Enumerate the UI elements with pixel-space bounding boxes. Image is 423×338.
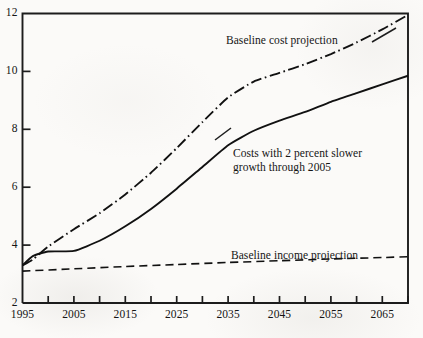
y-tick-label: 8	[12, 122, 18, 134]
x-tick-label: 2065	[362, 308, 402, 320]
annotation-label: Baseline income projection	[231, 249, 358, 263]
annotation-label: Baseline cost projection	[226, 34, 338, 48]
leader-slower-growth	[215, 128, 231, 140]
annotation-label: Costs with 2 percent slower	[233, 147, 362, 161]
series-line-2	[23, 76, 409, 266]
y-tick-label: 2	[12, 296, 18, 308]
x-tick-label: 2025	[157, 308, 197, 320]
data-series-group	[23, 15, 409, 271]
y-tick-label: 12	[6, 6, 18, 18]
x-tick-label: 2015	[105, 308, 145, 320]
leader-cost-projection	[372, 28, 396, 42]
plot-canvas	[0, 0, 423, 338]
x-tick-label: 2045	[260, 308, 300, 320]
y-tick-label: 4	[12, 238, 18, 250]
annotation-label: growth through 2005	[233, 161, 331, 175]
y-tick-label: 10	[6, 64, 18, 76]
x-tick-label: 2005	[54, 308, 94, 320]
x-tick-label: 2055	[311, 308, 351, 320]
x-tick-label: 1995	[3, 308, 43, 320]
chart-figure: 24681012 1995200520152025203520452055206…	[0, 0, 423, 338]
x-tick-label: 2035	[208, 308, 248, 320]
y-tick-label: 6	[12, 180, 18, 192]
